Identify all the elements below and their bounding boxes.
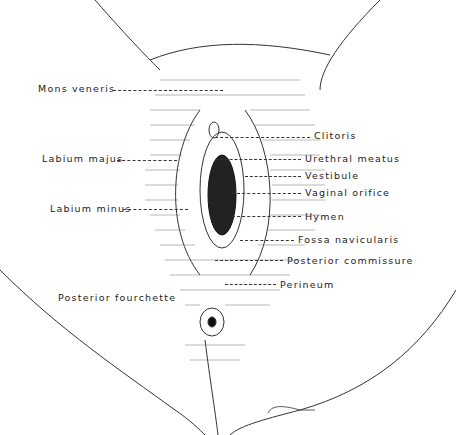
label-posterior-commissure: Posterior commissure [287,255,414,266]
leader-line [232,193,301,194]
anatomical-illustration [0,0,456,435]
label-mons-veneris: Mons veneris [38,83,115,94]
leader-line [215,260,283,261]
label-urethral-meatus: Urethral meatus [305,153,400,164]
leader-line [123,209,188,210]
leader-line [225,284,276,285]
leader-line [240,240,294,241]
label-perineum: Perineum [280,279,335,290]
label-posterior-fourchette: Posterior fourchette [58,292,176,303]
leader-line [245,176,301,177]
leader-line [215,159,301,160]
leader-line [232,216,301,217]
label-vaginal-orifice: Vaginal orifice [305,187,390,198]
label-hymen: Hymen [305,211,345,222]
label-labium-minus: Labium minus [50,203,131,214]
label-labium-majus: Labium majus [42,153,123,164]
leader-line [117,160,177,161]
leader-line [215,137,310,138]
label-clitoris: Clitoris [314,130,357,141]
leader-line [113,90,223,91]
label-fossa-navicularis: Fossa navicularis [298,234,399,245]
label-vestibule: Vestibule [305,170,359,181]
